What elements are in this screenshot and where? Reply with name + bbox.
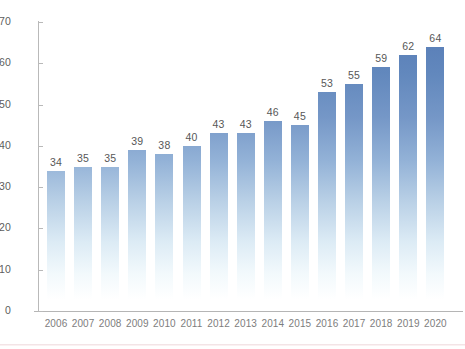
bar[interactable] [128, 150, 146, 311]
y-axis-tick-mark [38, 311, 43, 312]
y-axis-tick-label: 70 [0, 15, 11, 28]
x-axis-category-label: 2013 [233, 318, 259, 330]
x-axis-category-label: 2016 [314, 318, 340, 330]
x-axis-line [34, 311, 463, 312]
y-axis-tick-label: 50 [0, 98, 11, 111]
bar[interactable] [318, 92, 336, 311]
bar-item[interactable]: 59 [372, 22, 390, 311]
bar-item[interactable]: 45 [291, 22, 309, 311]
bar-value-label: 40 [185, 131, 197, 143]
y-axis-tick: 40 [0, 146, 44, 147]
bar-item[interactable]: 43 [237, 22, 255, 311]
bar-value-label: 62 [402, 40, 414, 52]
x-axis-category-label: 2009 [124, 318, 150, 330]
bar-item[interactable]: 38 [155, 22, 173, 311]
bar-item[interactable]: 55 [345, 22, 363, 311]
x-axis-category-label: 2006 [43, 318, 69, 330]
bar[interactable] [291, 125, 309, 311]
y-axis-tick-mark [38, 228, 43, 229]
scan-artifact-line-secondary [0, 345, 465, 346]
bar-value-label: 38 [158, 139, 170, 151]
x-axis-category-label: 2018 [368, 318, 394, 330]
y-axis-tick-label: 40 [0, 139, 11, 152]
bar[interactable] [210, 133, 228, 311]
x-axis-category-label: 2015 [287, 318, 313, 330]
bar-value-label: 43 [240, 118, 252, 130]
bar[interactable] [183, 146, 201, 311]
bar-item[interactable]: 35 [101, 22, 119, 311]
x-axis-category-label: 2010 [151, 318, 177, 330]
bar-item[interactable]: 40 [183, 22, 201, 311]
y-axis-tick-mark [38, 187, 43, 188]
bar-item[interactable]: 35 [74, 22, 92, 311]
x-axis-category-label: 2011 [179, 318, 205, 330]
bar-value-label: 35 [104, 152, 116, 164]
bar-item[interactable]: 46 [264, 22, 282, 311]
y-axis-tick: 0 [0, 311, 44, 312]
y-axis-tick-mark [38, 105, 43, 106]
bar-value-label: 64 [429, 32, 441, 44]
y-axis-tick-label: 20 [0, 221, 11, 234]
y-axis-tick: 70 [0, 22, 44, 23]
bar-item[interactable]: 43 [210, 22, 228, 311]
y-axis-tick-label: 30 [0, 180, 11, 193]
bar-value-label: 35 [77, 152, 89, 164]
x-axis-category-label: 2012 [206, 318, 232, 330]
bar[interactable] [345, 84, 363, 311]
bar-value-label: 59 [375, 52, 387, 64]
bar[interactable] [399, 55, 417, 311]
y-axis-tick: 10 [0, 270, 44, 271]
x-axis-category-label: 2007 [70, 318, 96, 330]
y-axis-tick: 20 [0, 228, 44, 229]
bar-value-label: 53 [321, 77, 333, 89]
bar[interactable] [74, 167, 92, 312]
bar-item[interactable]: 34 [47, 22, 65, 311]
y-axis-tick-label: 60 [0, 56, 11, 69]
x-axis-category-label: 2020 [422, 318, 448, 330]
bar[interactable] [372, 67, 390, 311]
bar[interactable] [264, 121, 282, 311]
y-axis-tick: 60 [0, 63, 44, 64]
bar-value-label: 46 [267, 106, 279, 118]
y-axis-tick-label: 10 [0, 263, 11, 276]
x-axis-category-label: 2019 [395, 318, 421, 330]
bar-value-label: 39 [131, 135, 143, 147]
x-axis-category-label: 2008 [97, 318, 123, 330]
bar-chart: 010203040506070 343535393840434346455355… [0, 0, 465, 349]
bar-item[interactable]: 62 [399, 22, 417, 311]
y-axis-tick: 50 [0, 105, 44, 106]
y-axis-tick-mark [38, 63, 43, 64]
bar-item[interactable]: 64 [426, 22, 444, 311]
bar[interactable] [426, 47, 444, 311]
bar[interactable] [237, 133, 255, 311]
bar-value-label: 34 [50, 156, 62, 168]
y-axis-tick-label: 0 [5, 304, 11, 317]
bar[interactable] [155, 154, 173, 311]
bar-value-label: 55 [348, 69, 360, 81]
bar-value-label: 45 [294, 110, 306, 122]
bar-item[interactable]: 39 [128, 22, 146, 311]
x-axis-category-label: 2017 [341, 318, 367, 330]
y-axis-tick: 30 [0, 187, 44, 188]
bar[interactable] [101, 167, 119, 312]
bar-value-label: 43 [213, 118, 225, 130]
bar[interactable] [47, 171, 65, 311]
y-axis-tick-mark [38, 146, 43, 147]
x-axis-category-label: 2014 [260, 318, 286, 330]
y-axis-tick-mark [38, 270, 43, 271]
bar-item[interactable]: 53 [318, 22, 336, 311]
y-axis-line [38, 21, 39, 311]
y-axis-tick-mark [38, 22, 43, 23]
